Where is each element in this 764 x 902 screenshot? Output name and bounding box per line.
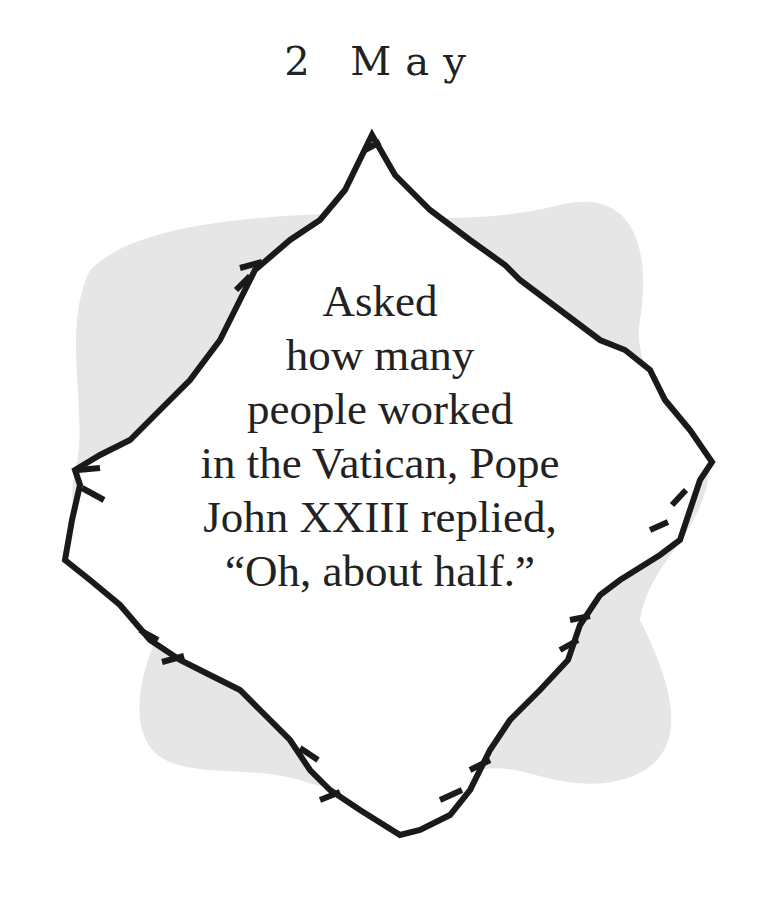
quote-line: “Oh, about half.” — [120, 544, 640, 598]
quote-line: people worked — [120, 382, 640, 436]
quote-line: Asked — [120, 274, 640, 328]
quote-line: how many — [120, 328, 640, 382]
quote-line: in the Vatican, Pope — [120, 436, 640, 490]
quote-line: John XXIII replied, — [120, 490, 640, 544]
quote-text: Asked how many people worked in the Vati… — [120, 274, 640, 598]
